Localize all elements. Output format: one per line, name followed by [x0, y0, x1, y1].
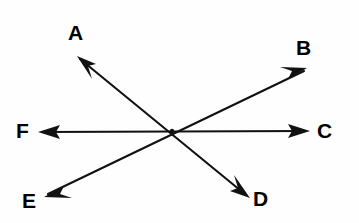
ray-label-a: A — [68, 22, 83, 43]
ray-label-d: D — [253, 188, 268, 209]
diagram-canvas: A B C D E F — [0, 0, 359, 223]
rays-svg — [0, 0, 359, 223]
arrow-head-e-icon — [44, 186, 72, 198]
ray-pair-ad — [77, 56, 250, 198]
arrow-head-d-icon — [230, 175, 250, 198]
ray-line-ad — [80, 59, 246, 195]
ray-label-f: F — [16, 120, 29, 141]
arrow-head-a-icon — [77, 56, 96, 79]
ray-label-e: E — [22, 190, 36, 211]
vertex-point — [170, 129, 174, 133]
ray-label-b: B — [296, 37, 311, 58]
ray-label-c: C — [317, 120, 332, 141]
